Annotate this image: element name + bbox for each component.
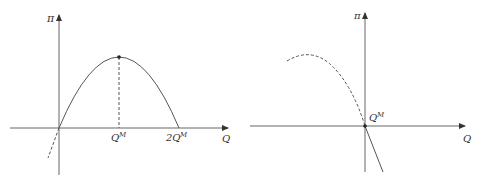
- svg-text:M: M: [179, 131, 188, 139]
- left-peak-point: [117, 55, 121, 59]
- left-dashed-extension: [48, 128, 59, 158]
- right-point-label-qm: Q M: [369, 111, 385, 123]
- right-panel: π Q Q M: [250, 10, 471, 172]
- svg-text:M: M: [118, 131, 127, 139]
- svg-text:M: M: [376, 111, 385, 119]
- figure: π Q Q M 2Q M π Q Q M: [0, 0, 480, 181]
- svg-text:2Q: 2Q: [165, 132, 181, 143]
- svg-text:Q: Q: [369, 112, 377, 123]
- left-x-axis-label: Q: [222, 133, 230, 144]
- svg-text:Q: Q: [111, 132, 119, 143]
- right-x-axis-label: Q: [463, 133, 471, 144]
- right-solid-line: [365, 126, 383, 172]
- left-panel: π Q Q M 2Q M: [10, 12, 230, 175]
- left-tick-2qm: 2Q M: [165, 131, 188, 143]
- left-tick-qm: Q M: [111, 131, 127, 143]
- right-y-axis-label: π: [353, 10, 361, 21]
- right-dashed-curve: [287, 55, 365, 126]
- right-origin-point: [363, 124, 367, 128]
- left-y-axis-label: π: [46, 12, 55, 25]
